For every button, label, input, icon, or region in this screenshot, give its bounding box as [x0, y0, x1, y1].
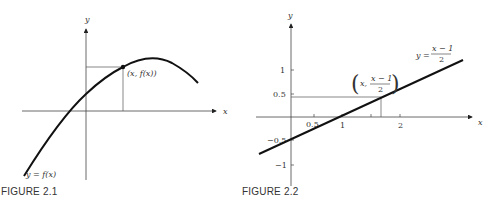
svg-text:x − 1: x − 1 [432, 44, 453, 53]
x-tick-label: 1 [340, 121, 345, 130]
line-label: y = x − 1 2 [415, 44, 453, 64]
svg-text:x,: x, [360, 79, 367, 88]
y-tick-label: −1 [275, 161, 287, 170]
line-graph [259, 60, 463, 154]
y-axis-label: y [84, 15, 90, 24]
svg-text:2: 2 [378, 85, 383, 94]
figure-2-2-caption: FIGURE 2.2 [242, 186, 298, 197]
figures-canvas: x y (x, f(x)) y = f(x) x y 0.5 1 2 1 0.5… [0, 0, 499, 210]
point-label: ( x, x − 1 2 ) [351, 71, 400, 96]
x-axis-label: x [223, 107, 228, 116]
svg-text:y =: y = [415, 51, 430, 60]
y-axis-label: y [287, 11, 293, 20]
figure-2-1-caption: FIGURE 2.1 [1, 186, 57, 197]
svg-text:(: ( [351, 71, 360, 96]
svg-text:x − 1: x − 1 [371, 74, 392, 83]
y-tick-label: 0.5 [273, 90, 286, 99]
figure-2-1: x y (x, f(x)) y = f(x) [22, 15, 228, 180]
x-tick-label: 2 [398, 121, 403, 130]
curve-f [24, 58, 198, 176]
y-tick-label: 1 [280, 66, 285, 75]
svg-text:2: 2 [439, 55, 444, 64]
figure-2-2: x y 0.5 1 2 1 0.5 −0.5 −1 ( x, x − 1 2 ) [256, 11, 483, 186]
x-axis-label: x [478, 118, 483, 127]
curve-label: y = f(x) [25, 170, 56, 179]
svg-text:): ) [391, 71, 400, 96]
point-marker [121, 65, 125, 69]
point-label: (x, f(x)) [127, 69, 157, 78]
